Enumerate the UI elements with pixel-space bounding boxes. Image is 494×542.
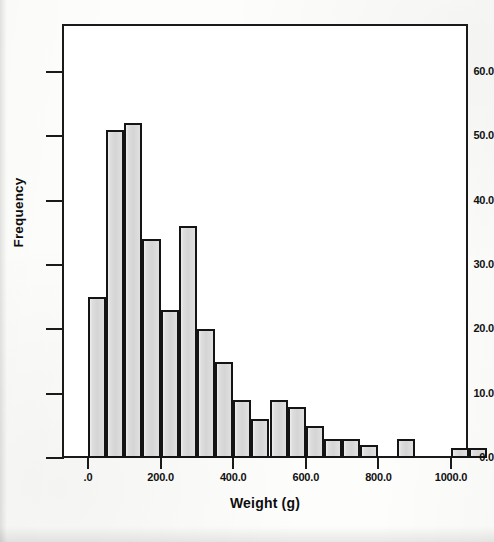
y-axis-tick bbox=[46, 264, 64, 266]
y-axis-tick bbox=[46, 71, 64, 73]
histogram-bar bbox=[233, 400, 251, 458]
x-axis-tick-label: 400.0 bbox=[198, 471, 268, 483]
y-axis-tick-label: 20.0 bbox=[450, 323, 494, 334]
histogram-bar bbox=[142, 239, 160, 458]
histogram-bar bbox=[306, 426, 324, 458]
histogram-bar bbox=[161, 310, 179, 458]
histogram-bar bbox=[360, 445, 378, 458]
y-axis-tick bbox=[46, 393, 64, 395]
histogram-bar bbox=[215, 362, 233, 459]
y-axis-tick bbox=[46, 135, 64, 137]
histogram-bar bbox=[397, 439, 415, 458]
y-axis-tick bbox=[46, 200, 64, 202]
histogram-bar bbox=[179, 226, 197, 458]
x-axis-tick bbox=[305, 458, 307, 469]
histogram-bar bbox=[288, 407, 306, 458]
histogram-bar bbox=[197, 329, 215, 458]
histogram-bar bbox=[124, 123, 142, 458]
histogram-bar bbox=[324, 439, 342, 458]
histogram-chart: 0.010.020.030.040.050.060.0 Frequency .0… bbox=[0, 0, 494, 542]
y-axis-title: Frequency bbox=[11, 153, 26, 273]
y-axis-tick bbox=[46, 457, 64, 459]
histogram-bar bbox=[88, 297, 106, 458]
y-axis-tick-label: 60.0 bbox=[450, 66, 494, 77]
x-axis-tick bbox=[232, 458, 234, 469]
x-axis-tick-label: 600.0 bbox=[271, 471, 341, 483]
histogram-bar bbox=[342, 439, 360, 458]
y-axis-tick-label: 30.0 bbox=[450, 259, 494, 270]
histogram-bar bbox=[251, 419, 269, 458]
x-axis-tick-label: 1000.0 bbox=[416, 471, 486, 483]
x-axis-title: Weight (g) bbox=[62, 495, 468, 511]
y-axis-tick bbox=[46, 328, 64, 330]
y-axis-tick-label: 10.0 bbox=[450, 388, 494, 399]
histogram-bar bbox=[270, 400, 288, 458]
x-axis-tick bbox=[450, 458, 452, 469]
histogram-bars bbox=[62, 24, 468, 458]
x-axis-tick-label: .0 bbox=[53, 471, 123, 483]
x-axis-tick-label: 800.0 bbox=[343, 471, 413, 483]
x-axis-tick bbox=[160, 458, 162, 469]
y-axis-tick-label: 0.0 bbox=[450, 452, 494, 463]
x-axis-tick bbox=[377, 458, 379, 469]
x-axis-tick-label: 200.0 bbox=[126, 471, 196, 483]
y-axis-tick-label: 50.0 bbox=[450, 130, 494, 141]
histogram-bar bbox=[106, 130, 124, 458]
x-axis-tick bbox=[87, 458, 89, 469]
y-axis-tick-label: 40.0 bbox=[450, 195, 494, 206]
